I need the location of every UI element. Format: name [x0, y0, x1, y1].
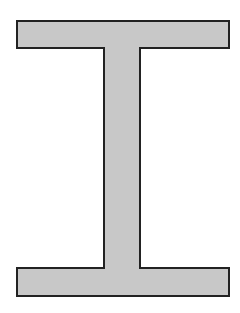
i-beam-shape: [17, 21, 229, 296]
i-beam-diagram: [0, 0, 240, 313]
